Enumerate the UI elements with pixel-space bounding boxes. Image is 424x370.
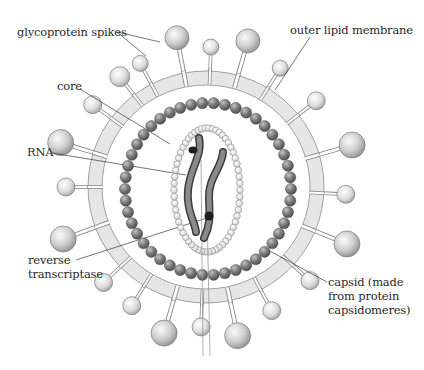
label-reverse-transcriptase-1: reverse xyxy=(28,253,70,267)
label-capsid-1: capsid (made xyxy=(328,275,403,289)
label-core: core xyxy=(57,79,82,93)
label-outer-lipid-membrane: outer lipid membrane xyxy=(290,23,413,37)
label-glycoprotein-spikes: glycoprotein spikes xyxy=(17,25,127,39)
label-capsid-3: capsidomeres) xyxy=(328,303,410,317)
label-reverse-transcriptase-2: transcriptase xyxy=(28,267,103,281)
label-rna: RNA xyxy=(27,145,53,159)
label-capsid-2: from protein xyxy=(328,289,399,303)
